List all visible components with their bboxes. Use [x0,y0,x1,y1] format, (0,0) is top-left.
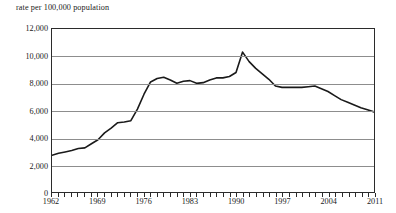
x-axis-tick-label: 1962 [43,197,59,206]
x-axis-tick-label: 2011 [367,197,383,206]
property-crime-rate-line-chart: rate per 100,000 population 12,00010,000… [0,0,396,213]
x-axis-tick-label: 1983 [182,197,198,206]
x-axis-tick-label: 1969 [89,197,105,206]
x-axis-tick-label: 1990 [228,197,244,206]
x-axis-tick-label-group: 19621969197619831990199720042011 [0,0,396,213]
x-axis-tick-label: 2004 [321,197,337,206]
x-axis-tick-label: 1997 [274,197,290,206]
x-axis-tick-label: 1976 [135,197,151,206]
